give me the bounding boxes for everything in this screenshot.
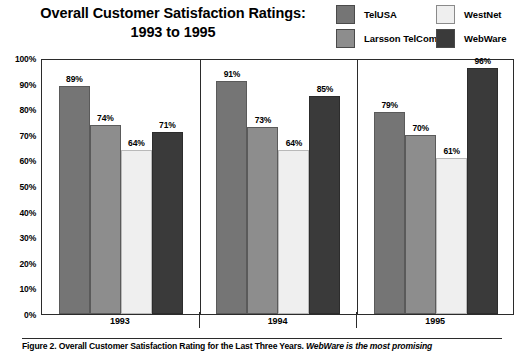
bar-slot: 79% [374,60,405,314]
x-axis-group-separator [199,312,200,328]
bar-webware-1993[interactable] [152,132,183,314]
bar-westnet-1994[interactable] [278,150,309,314]
bar-slot: 74% [90,60,121,314]
y-axis-tick: 70% [20,131,36,141]
bar-larsson-telcom-1995[interactable] [405,135,436,314]
bar-group-1994: 91%73%64%85% [200,60,358,314]
figure-caption: Figure 2. Overall Customer Satisfaction … [22,341,514,351]
caption-figure-label: Figure 2. Overall Customer Satisfaction … [22,341,304,351]
bar-telusa-1995[interactable] [374,112,405,314]
bar-larsson-telcom-1994[interactable] [247,127,278,314]
y-axis-tick: 40% [20,208,36,218]
bar-webware-1995[interactable] [467,68,498,314]
legend-swatch-telusa [336,5,355,24]
y-axis-tick: 30% [20,233,36,243]
bar-slot: 70% [405,60,436,314]
group-separator [357,60,358,314]
chart-header: Overall Customer Satisfaction Ratings: 1… [0,0,524,52]
legend-item-westnet: WestNet [436,5,501,24]
legend-swatch-webware [436,29,455,48]
bar-westnet-1993[interactable] [121,150,152,314]
plot-area: 89%74%64%71%91%73%64%85%79%70%61%96% [41,59,514,315]
legend-item-larsson-telcom: Larsson TelCom [336,29,437,48]
bar-slot: 61% [436,60,467,314]
legend-item-webware: WebWare [436,29,506,48]
legend-label-larsson-telcom: Larsson TelCom [364,33,437,44]
y-axis-tick: 90% [20,80,36,90]
y-axis-tick: 80% [20,105,36,115]
chart-title-line-2: 1993 to 1995 [18,23,328,42]
bar-slot: 73% [247,60,278,314]
chart-legend: TelUSA WestNet Larsson TelCom WebWare [336,2,524,50]
bar-group-1995: 79%70%61%96% [357,60,515,314]
bar-value-label: 71% [145,120,189,130]
y-axis-tick: 0% [24,310,36,320]
legend-label-webware: WebWare [464,33,506,44]
y-axis: 0%10%20%30%40%50%60%70%80%90%100% [0,52,40,316]
page-title: Overall Customer Satisfaction Ratings: 1… [18,4,328,42]
legend-swatch-larsson-telcom [336,29,355,48]
group-separator [200,60,201,314]
bar-slot: 89% [59,60,90,314]
y-axis-tick: 60% [20,156,36,166]
y-axis-tick: 100% [15,54,36,64]
bar-slot: 85% [309,60,340,314]
bar-slot: 71% [152,60,183,314]
x-axis-tick-1994: 1994 [199,316,357,326]
x-axis-tick-1995: 1995 [356,316,514,326]
y-axis-tick: 50% [20,182,36,192]
bar-group-1993: 89%74%64%71% [42,60,200,314]
bar-slot: 64% [121,60,152,314]
y-axis-tick: 10% [20,284,36,294]
bar-slot: 96% [467,60,498,314]
y-axis-tick: 20% [20,259,36,269]
chart-plot-wrapper: 0%10%20%30%40%50%60%70%80%90%100% 89%74%… [0,52,524,320]
legend-label-westnet: WestNet [464,9,501,20]
bar-webware-1994[interactable] [309,96,340,314]
legend-swatch-westnet [436,5,455,24]
x-axis: 199319941995 [41,316,514,332]
bar-slot: 91% [216,60,247,314]
legend-label-telusa: TelUSA [364,9,397,20]
bar-value-label: 85% [303,84,347,94]
caption-divider [22,338,502,339]
x-axis-group-separator [356,312,357,328]
bar-larsson-telcom-1993[interactable] [90,125,121,314]
x-axis-tick-1993: 1993 [41,316,199,326]
bar-value-label: 96% [461,56,505,66]
bar-slot: 64% [278,60,309,314]
chart-title-line-1: Overall Customer Satisfaction Ratings: [40,5,305,21]
caption-note: WebWare is the most promising [306,341,432,351]
legend-item-telusa: TelUSA [336,5,397,24]
bar-westnet-1995[interactable] [436,158,467,314]
